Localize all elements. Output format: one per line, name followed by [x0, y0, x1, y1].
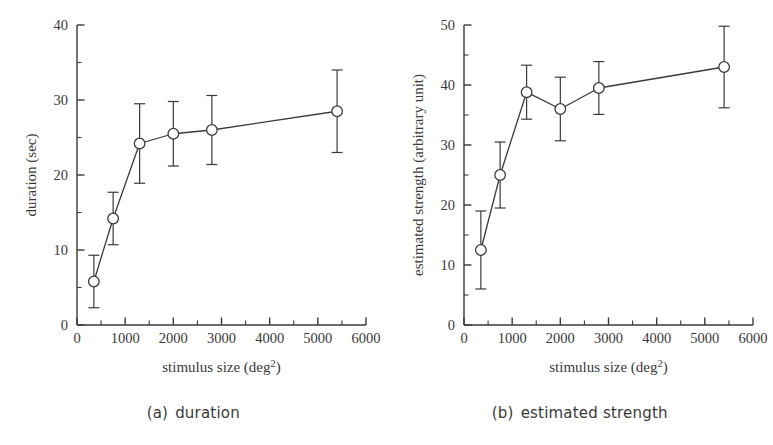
- y-tick-label: 40: [440, 77, 455, 93]
- data-point: [494, 142, 505, 208]
- y-tick-label: 10: [54, 242, 69, 258]
- open-circle-marker: [593, 83, 604, 94]
- data-point: [134, 104, 145, 184]
- open-circle-marker: [521, 87, 532, 98]
- panel-b-caption: (b)estimated strength: [387, 404, 773, 422]
- data-point: [108, 192, 119, 245]
- panel-a-caption-text: duration: [175, 404, 240, 422]
- open-circle-marker: [555, 104, 566, 115]
- data-point: [168, 102, 179, 167]
- y-tick-label: 40: [54, 17, 69, 33]
- x-tick-label: 4000: [642, 330, 671, 346]
- data-point: [88, 255, 99, 308]
- open-circle-marker: [134, 138, 145, 149]
- open-circle-marker: [89, 276, 100, 287]
- estimated-strength-plot: 010002000300040005000600001020304050stim…: [387, 0, 773, 400]
- x-tick-label: 2000: [159, 330, 188, 346]
- x-tick-label: 5000: [690, 330, 719, 346]
- panel-a-caption-tag: (a): [147, 404, 169, 422]
- x-tick-label: 6000: [738, 330, 767, 346]
- y-tick-label: 20: [440, 197, 455, 213]
- y-tick-label: 20: [54, 167, 69, 183]
- data-point: [475, 211, 486, 289]
- panel-a-caption: (a)duration: [0, 404, 387, 422]
- x-tick-label: 6000: [352, 330, 381, 346]
- data-point: [718, 26, 729, 108]
- x-axis-label-tail: ): [662, 359, 667, 376]
- x-tick-label: 5000: [303, 330, 332, 346]
- x-tick-label: 0: [73, 330, 80, 346]
- data-point: [521, 65, 532, 119]
- y-axis-label: duration (sec): [23, 134, 40, 217]
- x-tick-label: 3000: [594, 330, 623, 346]
- open-circle-marker: [108, 213, 119, 224]
- x-axis-label-main: stimulus size (deg: [162, 359, 271, 376]
- x-tick-label: 4000: [255, 330, 284, 346]
- x-axis-label-tail: ): [276, 359, 281, 376]
- y-tick-label: 30: [440, 137, 455, 153]
- y-axis-label: estimated strength (arbitrary unit): [410, 74, 427, 276]
- panel-a-duration: 0100020003000400050006000010203040stimul…: [0, 0, 387, 445]
- x-tick-label: 3000: [207, 330, 236, 346]
- x-tick-label: 0: [460, 330, 467, 346]
- data-series-line: [480, 67, 723, 250]
- data-point: [593, 62, 604, 115]
- y-tick-label: 30: [54, 92, 69, 108]
- panel-b-estimated-strength: 010002000300040005000600001020304050stim…: [387, 0, 773, 445]
- data-series-line: [94, 111, 337, 281]
- y-tick-label: 10: [440, 257, 455, 273]
- x-tick-label: 1000: [111, 330, 140, 346]
- open-circle-marker: [718, 62, 729, 73]
- figure-two-panel: 0100020003000400050006000010203040stimul…: [0, 0, 773, 445]
- open-circle-marker: [332, 106, 343, 117]
- duration-plot: 0100020003000400050006000010203040stimul…: [0, 0, 386, 400]
- y-tick-label: 0: [447, 317, 454, 333]
- x-tick-label: 1000: [497, 330, 526, 346]
- y-tick-label: 50: [440, 17, 455, 33]
- data-point: [554, 77, 565, 141]
- open-circle-marker: [207, 125, 218, 136]
- open-circle-marker: [475, 245, 486, 256]
- data-point: [332, 70, 343, 153]
- open-circle-marker: [168, 128, 179, 139]
- x-axis-label: stimulus size (deg2): [549, 358, 668, 376]
- x-axis-label: stimulus size (deg2): [162, 358, 281, 376]
- panel-b-caption-tag: (b): [492, 404, 514, 422]
- panel-b-caption-text: estimated strength: [521, 404, 668, 422]
- x-axis-label-main: stimulus size (deg: [549, 359, 658, 376]
- data-point: [206, 96, 217, 165]
- x-tick-label: 2000: [545, 330, 574, 346]
- open-circle-marker: [494, 170, 505, 181]
- y-tick-label: 0: [61, 317, 68, 333]
